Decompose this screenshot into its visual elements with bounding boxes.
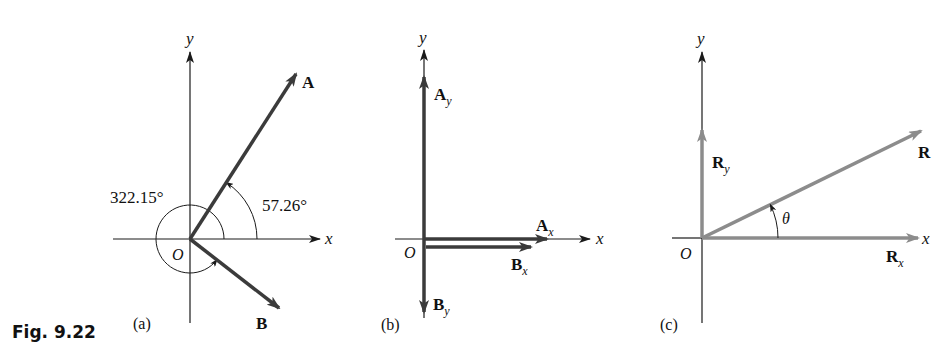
x-axis-label: x bbox=[921, 229, 930, 248]
angle-label-a: 57.26° bbox=[262, 196, 307, 215]
vector-bx-label: Bx bbox=[511, 255, 528, 278]
angle-label-b: 322.15° bbox=[110, 188, 164, 207]
vector-b-label: B bbox=[256, 314, 267, 333]
origin-label: O bbox=[404, 244, 416, 261]
panel-caption: (c) bbox=[660, 316, 678, 334]
x-axis-label: x bbox=[324, 229, 333, 248]
panel-a: y x O A B 57.26° 322.15° (a) bbox=[110, 29, 333, 333]
panel-c: y x O θ R Ry Rx (c) bbox=[660, 29, 931, 334]
vector-a-label: A bbox=[302, 73, 315, 92]
vector-r-label: R bbox=[918, 143, 931, 162]
y-axis-label: y bbox=[184, 29, 194, 48]
vector-ry-label: Ry bbox=[712, 153, 730, 176]
vector-b bbox=[190, 239, 279, 308]
x-axis-label: x bbox=[595, 229, 604, 248]
panel-b: y x O Ay Ax Bx By (b) bbox=[381, 28, 604, 334]
vector-r bbox=[702, 131, 921, 238]
figure-label: Fig. 9.22 bbox=[12, 322, 96, 342]
figure-canvas: Fig. 9.22 y x O A B 57.26° 322.15° (a) y… bbox=[0, 0, 950, 356]
y-axis-label: y bbox=[417, 28, 427, 47]
panel-caption: (a) bbox=[133, 315, 151, 333]
vector-by-label: By bbox=[433, 295, 450, 318]
origin-label: O bbox=[172, 246, 184, 263]
theta-label: θ bbox=[782, 210, 790, 227]
vector-ay-label: Ay bbox=[434, 85, 452, 108]
angle-arc-57 bbox=[226, 183, 257, 239]
vector-ax-label: Ax bbox=[536, 216, 554, 239]
y-axis-label: y bbox=[695, 29, 705, 48]
vector-rx-label: Rx bbox=[886, 247, 904, 270]
theta-arc bbox=[770, 205, 778, 238]
origin-label: O bbox=[680, 245, 692, 262]
panel-caption: (b) bbox=[381, 316, 400, 334]
